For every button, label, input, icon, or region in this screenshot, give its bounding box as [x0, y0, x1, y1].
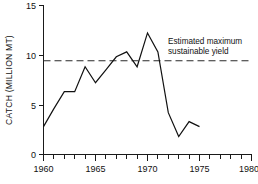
- y-tick-label-10: 10: [26, 51, 36, 61]
- y-tick-label-5: 5: [31, 101, 36, 111]
- y-axis-title: CATCH (MILLION MT): [4, 35, 14, 125]
- msy-annotation-line1: Estimated maximum: [168, 37, 242, 46]
- chart-figure: 15 10 5 0 CATCH (MILLION MT): [0, 0, 258, 184]
- x-tick-label-1970: 1970: [137, 164, 157, 174]
- msy-annotation: Estimated maximum sustainable yield: [168, 37, 242, 56]
- x-tick-label-1960: 1960: [33, 164, 53, 174]
- x-tick-label-1965: 1965: [85, 164, 105, 174]
- x-tick-label-1975: 1975: [189, 164, 209, 174]
- x-axis-group: 1960 1965 1970 1975 1980: [33, 155, 258, 175]
- y-tick-label-15: 15: [26, 1, 36, 11]
- msy-annotation-line2: sustainable yield: [168, 47, 229, 56]
- y-axis-group: 15 10 5 0: [26, 1, 44, 160]
- catch-line-chart: 15 10 5 0 CATCH (MILLION MT): [0, 0, 258, 184]
- y-axis-title-group: CATCH (MILLION MT): [4, 35, 14, 125]
- y-tick-label-0: 0: [31, 150, 36, 160]
- x-tick-label-1980: 1980: [239, 164, 258, 174]
